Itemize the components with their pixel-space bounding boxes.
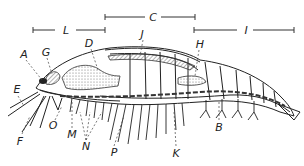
label-M: M [67, 129, 77, 140]
label-J: J [140, 29, 143, 40]
label-B: B [215, 122, 223, 133]
label-E: E [14, 84, 21, 95]
label-G: G [42, 47, 51, 58]
label-P: P [111, 147, 118, 158]
bracket-label-I: I [244, 25, 247, 36]
eye-A [39, 78, 47, 84]
bracket-label-L: L [63, 25, 69, 36]
label-D: D [85, 38, 93, 49]
organ-J [108, 54, 195, 70]
label-K: K [172, 148, 179, 159]
organ-D [62, 65, 120, 89]
thoracic-legs [70, 98, 184, 144]
label-F: F [17, 136, 23, 147]
label-H: H [196, 39, 204, 50]
pleopods [200, 99, 258, 120]
label-A: A [20, 49, 28, 60]
label-O: O [49, 120, 58, 131]
label-N: N [82, 141, 90, 152]
bracket-label-C: C [149, 12, 157, 23]
organ-H [178, 76, 206, 85]
crustacean-diagram [0, 0, 304, 166]
